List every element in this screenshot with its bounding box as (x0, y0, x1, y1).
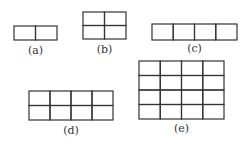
grid-cell (203, 76, 224, 91)
grid-cell (160, 90, 181, 105)
grid-cell (50, 106, 71, 121)
grid-cell (203, 61, 224, 76)
figure-c: (c) (152, 24, 237, 55)
grid-cell (203, 105, 224, 120)
figure-d: (d) (29, 91, 113, 137)
grid-cell (203, 90, 224, 105)
grid-cell (139, 76, 160, 91)
grid-cell (139, 105, 160, 120)
figure-label-a: (a) (28, 44, 43, 57)
grid-cell (83, 12, 105, 26)
figure-label-e: (e) (174, 122, 189, 135)
grid-cell (139, 61, 160, 76)
figure-b: (b) (83, 12, 126, 56)
grid-cell (92, 106, 113, 121)
figure-e: (e) (139, 61, 224, 135)
grid-cell (160, 61, 181, 76)
grid-cell (92, 91, 113, 106)
figure-a: (a) (14, 26, 57, 57)
grid-cell (152, 24, 173, 40)
grid-cell (14, 26, 36, 40)
grid-cell (216, 24, 237, 40)
grid-cell (173, 24, 194, 40)
grid-cell (71, 91, 92, 106)
grid-cell (36, 26, 58, 40)
grid-cell (160, 105, 181, 120)
grid-cell (182, 61, 203, 76)
grid-cell (182, 105, 203, 120)
grid-cell (182, 76, 203, 91)
figure-label-b: (b) (97, 43, 113, 56)
grid-cell (50, 91, 71, 106)
grid-cell (105, 12, 127, 26)
grid-cell (71, 106, 92, 121)
grid-cell (139, 90, 160, 105)
grid-cell (182, 90, 203, 105)
grid-cell (195, 24, 216, 40)
grid-figures-diagram: (a)(b)(c)(d)(e) (0, 0, 249, 147)
grid-cell (160, 76, 181, 91)
grid-cell (29, 106, 50, 121)
grid-cell (29, 91, 50, 106)
figure-label-d: (d) (63, 124, 79, 137)
grid-cell (83, 26, 105, 40)
grid-cell (105, 26, 127, 40)
figure-label-c: (c) (187, 42, 202, 55)
